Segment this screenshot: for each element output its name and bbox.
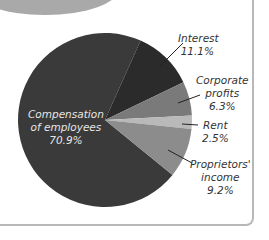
label-proprietors-line2: income <box>190 171 251 184</box>
label-proprietors-income: Proprietors' income 9.2% <box>190 158 251 197</box>
label-interest-value: 11.1% <box>176 45 219 58</box>
label-proprietors-value: 9.2% <box>190 184 251 197</box>
label-interest-line1: Interest <box>176 32 219 45</box>
label-corporate-line1: Corporate <box>196 74 249 87</box>
label-corporate-line2: profits <box>196 87 249 100</box>
label-compensation-line2: of employees <box>28 121 104 134</box>
label-compensation-value: 70.9% <box>28 134 104 147</box>
label-rent-value: 2.5% <box>202 132 229 145</box>
label-rent: Rent 2.5% <box>202 119 229 145</box>
label-compensation-line1: Compensation <box>28 108 104 121</box>
label-rent-line1: Rent <box>202 119 229 132</box>
label-corporate-value: 6.3% <box>196 100 249 113</box>
label-proprietors-line1: Proprietors' <box>190 158 251 171</box>
label-corporate-profits: Corporate profits 6.3% <box>196 74 249 113</box>
label-interest: Interest 11.1% <box>176 32 219 58</box>
label-compensation: Compensation of employees 70.9% <box>28 108 104 147</box>
